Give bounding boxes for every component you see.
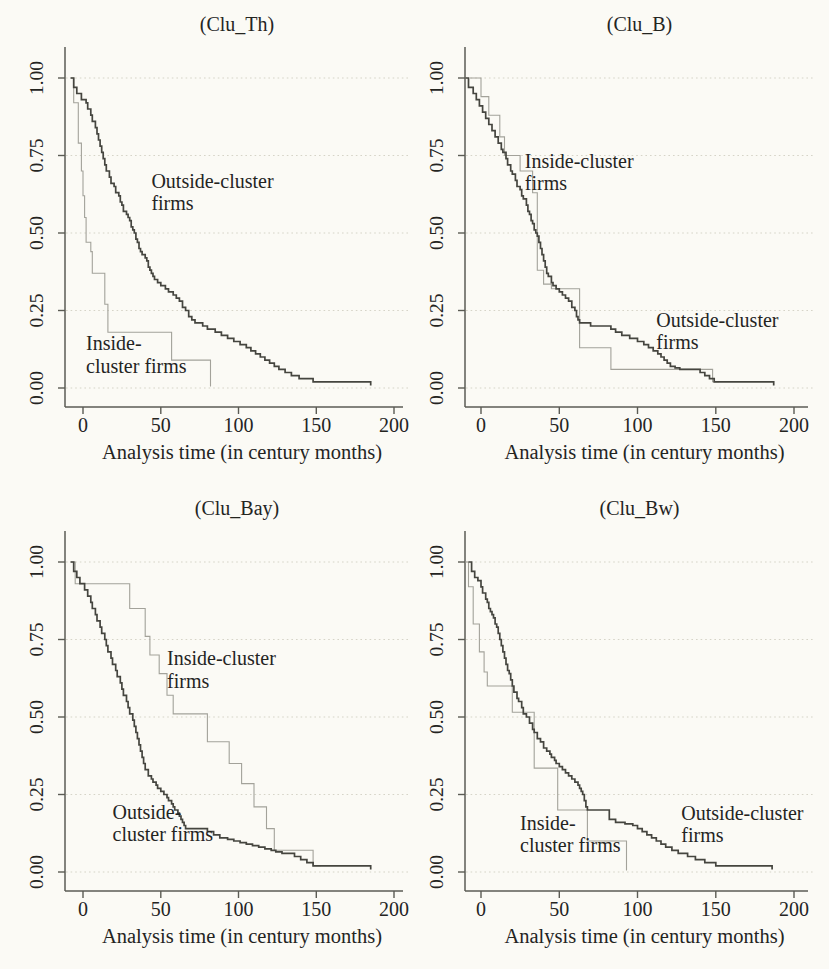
curve-annotation: Inside- bbox=[86, 332, 142, 354]
panel-title: (Clu_Th) bbox=[200, 13, 274, 36]
x-tick-label: 0 bbox=[78, 898, 88, 920]
curve-annotation: firms bbox=[151, 192, 193, 214]
curve-annotation: cluster firms bbox=[520, 834, 621, 856]
y-tick-label: 0.25 bbox=[426, 293, 447, 327]
panel-svg-club: 0.000.250.500.751.00050100150200(Clu_B)A… bbox=[415, 0, 829, 470]
y-tick-label: 0.75 bbox=[426, 138, 447, 172]
x-tick-label: 50 bbox=[549, 414, 569, 436]
x-tick-label: 150 bbox=[301, 414, 331, 436]
x-tick-label: 100 bbox=[224, 898, 254, 920]
panel-svg-clubw: 0.000.250.500.751.00050100150200(Clu_Bw)… bbox=[415, 484, 829, 954]
curve-annotation: firms bbox=[167, 670, 209, 692]
y-tick-label: 1.00 bbox=[426, 545, 447, 579]
x-tick-label: 200 bbox=[779, 414, 809, 436]
x-tick-label: 150 bbox=[701, 414, 731, 436]
x-axis-title: Analysis time (in century months) bbox=[102, 925, 382, 948]
x-tick-label: 100 bbox=[623, 898, 653, 920]
y-tick-label: 0.25 bbox=[426, 777, 447, 811]
panel-title: (Clu_Bw) bbox=[600, 497, 680, 520]
y-tick-label: 1.00 bbox=[426, 61, 447, 95]
curve-annotation: Outside-cluster bbox=[681, 802, 804, 824]
y-tick-label: 0.75 bbox=[26, 138, 47, 172]
curve-annotation: Inside- bbox=[520, 812, 576, 834]
panel-clu-bay: 0.000.250.500.751.00050100150200(Clu_Bay… bbox=[0, 484, 415, 954]
curve-annotation: Inside-cluster bbox=[167, 647, 276, 669]
curve-annotation: Outside- bbox=[113, 801, 182, 823]
x-tick-label: 150 bbox=[701, 898, 731, 920]
x-tick-label: 200 bbox=[779, 898, 809, 920]
x-tick-label: 0 bbox=[476, 898, 486, 920]
y-tick-label: 0.50 bbox=[426, 216, 447, 250]
x-axis-title: Analysis time (in century months) bbox=[504, 925, 784, 948]
curve-annotation: Outside-cluster bbox=[151, 170, 274, 192]
panel-clu-b: 0.000.250.500.751.00050100150200(Clu_B)A… bbox=[415, 0, 829, 470]
x-tick-label: 0 bbox=[476, 414, 486, 436]
y-tick-label: 0.25 bbox=[26, 293, 47, 327]
x-tick-label: 100 bbox=[224, 414, 254, 436]
panel-clu-th: 0.000.250.500.751.00050100150200(Clu_Th)… bbox=[0, 0, 415, 470]
y-tick-label: 0.50 bbox=[26, 216, 47, 250]
y-tick-label: 0.75 bbox=[26, 622, 47, 656]
y-tick-label: 0.00 bbox=[426, 371, 447, 405]
x-tick-label: 0 bbox=[78, 414, 88, 436]
y-tick-label: 0.00 bbox=[426, 855, 447, 889]
x-tick-label: 50 bbox=[549, 898, 569, 920]
survival-curves-figure: 0.000.250.500.751.00050100150200(Clu_Th)… bbox=[0, 0, 829, 969]
y-tick-label: 0.50 bbox=[26, 700, 47, 734]
curve-annotation: cluster firms bbox=[113, 823, 214, 845]
panel-svg-cluth: 0.000.250.500.751.00050100150200(Clu_Th)… bbox=[0, 0, 415, 470]
x-tick-label: 50 bbox=[151, 414, 171, 436]
inside-cluster-curve bbox=[71, 562, 321, 866]
x-tick-label: 100 bbox=[623, 414, 653, 436]
panel-title: (Clu_B) bbox=[607, 13, 673, 36]
curve-annotation: firms bbox=[656, 331, 698, 353]
panel-clu-bw: 0.000.250.500.751.00050100150200(Clu_Bw)… bbox=[415, 484, 829, 954]
curve-annotation: firms bbox=[681, 824, 723, 846]
outside-cluster-curve bbox=[465, 78, 773, 386]
curve-annotation: Inside-cluster bbox=[525, 150, 634, 172]
x-axis-title: Analysis time (in century months) bbox=[102, 441, 382, 464]
y-tick-label: 1.00 bbox=[26, 61, 47, 95]
panel-title: (Clu_Bay) bbox=[195, 497, 279, 520]
y-tick-label: 0.50 bbox=[426, 700, 447, 734]
panel-svg-clubay: 0.000.250.500.751.00050100150200(Clu_Bay… bbox=[0, 484, 415, 954]
y-tick-label: 0.25 bbox=[26, 777, 47, 811]
y-tick-label: 0.00 bbox=[26, 855, 47, 889]
x-tick-label: 200 bbox=[379, 898, 409, 920]
curve-annotation: cluster firms bbox=[86, 355, 187, 377]
x-tick-label: 50 bbox=[151, 898, 171, 920]
y-tick-label: 0.00 bbox=[26, 371, 47, 405]
x-tick-label: 150 bbox=[301, 898, 331, 920]
curve-annotation: firms bbox=[525, 172, 567, 194]
x-tick-label: 200 bbox=[379, 414, 409, 436]
y-tick-label: 1.00 bbox=[26, 545, 47, 579]
y-tick-label: 0.75 bbox=[426, 622, 447, 656]
curve-annotation: Outside-cluster bbox=[656, 309, 779, 331]
x-axis-title: Analysis time (in century months) bbox=[504, 441, 784, 464]
